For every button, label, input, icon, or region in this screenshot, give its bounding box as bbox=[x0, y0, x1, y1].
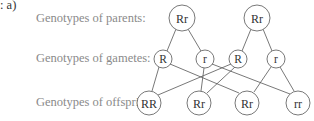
svg-text:r: r bbox=[203, 53, 207, 65]
gamete-node-3: R bbox=[229, 50, 247, 68]
gamete-node-1: R bbox=[154, 50, 172, 68]
offspring-node-4: rr bbox=[286, 91, 310, 115]
parent-nodes: Rr Rr bbox=[169, 5, 270, 31]
svg-text:RR: RR bbox=[141, 97, 157, 111]
svg-text:Rr: Rr bbox=[251, 12, 263, 26]
parent-node-2: Rr bbox=[244, 5, 270, 31]
svg-text:r: r bbox=[274, 53, 278, 65]
svg-text:rr: rr bbox=[294, 97, 302, 111]
svg-text:Rr: Rr bbox=[241, 97, 253, 111]
svg-text:Rr: Rr bbox=[193, 97, 205, 111]
gamete-node-2: r bbox=[196, 50, 214, 68]
svg-text:R: R bbox=[234, 53, 242, 65]
parent-node-1: Rr bbox=[169, 5, 195, 31]
cross-diagram: Rr Rr R r R r RR Rr bbox=[0, 0, 314, 121]
svg-text:R: R bbox=[159, 53, 167, 65]
svg-text:Rr: Rr bbox=[176, 12, 188, 26]
offspring-node-1: RR bbox=[137, 91, 161, 115]
offspring-node-2: Rr bbox=[187, 91, 211, 115]
gamete-node-4: r bbox=[267, 50, 285, 68]
offspring-node-3: Rr bbox=[235, 91, 259, 115]
offspring-nodes: RR Rr Rr rr bbox=[137, 91, 310, 115]
